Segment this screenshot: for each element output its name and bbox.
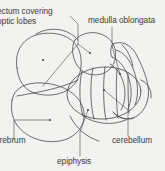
medulla-fold-3 — [110, 64, 125, 110]
cerebellum-striation-1 — [80, 71, 83, 116]
cerebellum-striation-2 — [91, 68, 94, 119]
label-cerebrum: erebrum — [0, 136, 26, 146]
optic-lobe-outline — [16, 33, 81, 95]
cerebellum-striation-4 — [116, 69, 118, 118]
contour-right-edge — [141, 80, 151, 98]
cerebellum-striation-3 — [104, 67, 106, 120]
label-medulla-oblongata: medulla oblongata — [88, 16, 155, 26]
label-cerebellum: cerebellum — [112, 136, 152, 146]
label-epiphysis: epiphysis — [57, 157, 91, 167]
leader-dot-cerebrum — [49, 119, 51, 121]
cerebrum-outline — [12, 83, 85, 142]
contour-upper-left — [36, 29, 78, 40]
label-tectum-covering-optic-lobes: ectum covering optic lobes — [0, 7, 53, 26]
label-tectum-line2: optic lobes — [0, 17, 53, 27]
